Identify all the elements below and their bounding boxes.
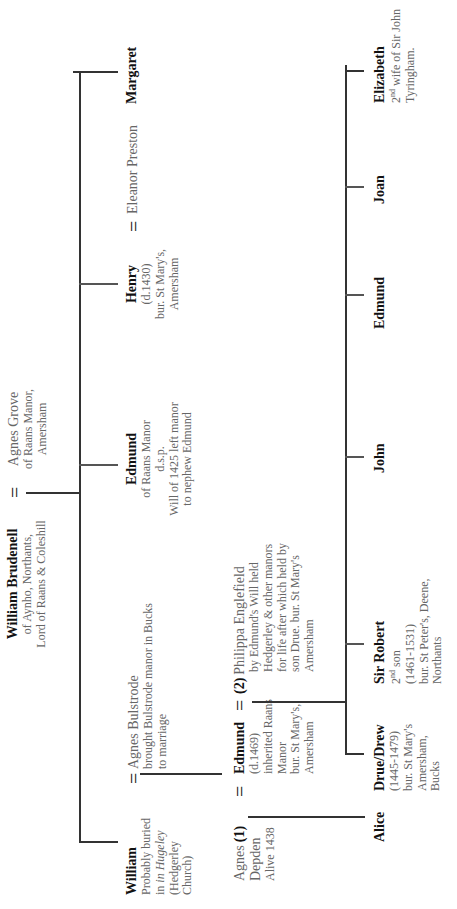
drop-william xyxy=(79,841,118,843)
person-eleanor-preston: Eleanor Preston xyxy=(125,94,141,214)
drop-robert xyxy=(345,643,364,645)
root-spouse-agnes-grove: Agnes Grove of Raans Manor, Amersham xyxy=(6,374,50,484)
descent-line-children xyxy=(252,701,346,703)
drop-margaret xyxy=(73,71,118,73)
descent-line-alice xyxy=(248,816,365,818)
family-tree-diagram: William Brudenell of Aynho, Northants, L… xyxy=(0,0,457,909)
person-agnes-depden: Agnes (1) Depden Alive 1438 xyxy=(232,796,278,881)
person-agnes-bulstrode: Agnes Bulstrode brought Bulstrode manor … xyxy=(126,539,170,769)
person-name: William Brudenell xyxy=(5,484,21,684)
person-joan: Joan xyxy=(372,144,388,204)
person-william: William Probably buried in in Hugeley (H… xyxy=(124,800,195,895)
marriage-symbol: = xyxy=(230,700,250,711)
descent-line xyxy=(140,773,222,775)
person-elizabeth: Elizabeth 2nd wife of Sir John Tyringham… xyxy=(372,3,418,103)
root-william-brudenell: William Brudenell of Aynho, Northants, L… xyxy=(5,484,49,684)
person-henry: Henry (d.1430) bur. St Mary's, Amersham xyxy=(124,229,181,339)
marriage-symbol: = xyxy=(5,487,25,498)
marriage-symbol: = xyxy=(230,786,250,797)
person-drue: Drue/Drew (1445-1479) bur. St Mary's Ame… xyxy=(372,691,443,791)
drop-edmund xyxy=(345,294,364,296)
drop-joan xyxy=(345,186,364,188)
person-edmund-gen3: Edmund xyxy=(372,249,388,329)
person-sir-robert: Sir Robert 2nd son (1461-1531) bur. St P… xyxy=(372,514,445,684)
drop-edmund xyxy=(79,464,118,466)
generation1-bar xyxy=(79,73,81,843)
generation3-bar xyxy=(345,65,347,755)
drop-elizabeth xyxy=(345,70,364,72)
marriage-symbol: = xyxy=(124,221,144,232)
person-alice: Alice xyxy=(372,782,388,842)
drop-drue xyxy=(345,753,364,755)
person-margaret: Margaret xyxy=(124,14,140,104)
person-philippa-englefield: (2) Philippa Englefield by Edmund's Will… xyxy=(232,454,317,694)
descent-line xyxy=(26,492,80,494)
drop-henry xyxy=(79,283,118,285)
drop-john xyxy=(345,456,364,458)
person-edmund-raans: Edmund of Raans Manor d.s.p. Will of 142… xyxy=(124,389,195,529)
person-john: John xyxy=(372,413,388,473)
